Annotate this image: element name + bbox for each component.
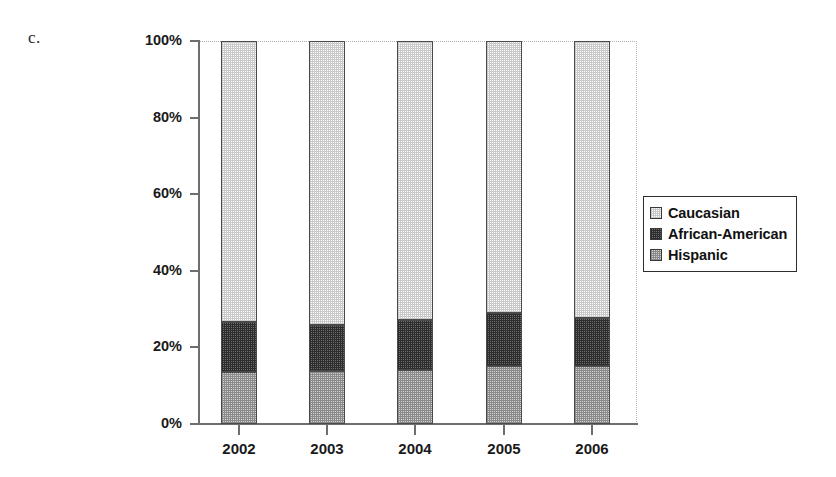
bar-segment-hispanic-2003[interactable] bbox=[309, 371, 345, 424]
y-axis-line bbox=[198, 40, 200, 425]
x-axis-tick bbox=[591, 425, 593, 435]
legend-item-caucasian[interactable]: Caucasian bbox=[650, 202, 787, 223]
legend-item-hispanic[interactable]: Hispanic bbox=[650, 244, 787, 265]
x-axis-tick-label: 2006 bbox=[552, 440, 632, 457]
x-axis-tick bbox=[414, 425, 416, 435]
y-axis-tick-label: 100% bbox=[120, 32, 182, 48]
bar-segment-african-american-2002[interactable] bbox=[221, 322, 257, 372]
legend-item-african-american[interactable]: African-American bbox=[650, 223, 787, 244]
y-axis-tick-label: 60% bbox=[120, 185, 182, 201]
bar-segment-african-american-2004[interactable] bbox=[397, 320, 433, 370]
bar-2003[interactable] bbox=[309, 41, 345, 424]
legend-item-label: Hispanic bbox=[668, 247, 728, 263]
y-axis-tick-label: 0% bbox=[120, 415, 182, 431]
y-axis-tick-label: 20% bbox=[120, 338, 182, 354]
chart-page: c. 0%20%40%60%80%100% 200220032004200520… bbox=[0, 0, 836, 477]
bar-segment-african-american-2005[interactable] bbox=[486, 313, 522, 366]
x-axis-tick bbox=[326, 425, 328, 435]
bar-segment-hispanic-2004[interactable] bbox=[397, 370, 433, 424]
bar-segment-caucasian-2005[interactable] bbox=[486, 41, 522, 313]
y-axis-tick bbox=[190, 40, 199, 42]
y-axis-tick bbox=[190, 270, 199, 272]
bar-segment-caucasian-2002[interactable] bbox=[221, 41, 257, 322]
bar-segment-caucasian-2004[interactable] bbox=[397, 41, 433, 320]
legend-swatch-icon bbox=[650, 249, 662, 261]
bar-segment-caucasian-2006[interactable] bbox=[574, 41, 610, 318]
y-axis-tick bbox=[190, 193, 199, 195]
x-axis-tick-label: 2003 bbox=[287, 440, 367, 457]
chart-legend: CaucasianAfrican-AmericanHispanic bbox=[643, 196, 797, 272]
bar-segment-hispanic-2002[interactable] bbox=[221, 372, 257, 424]
legend-swatch-icon bbox=[650, 207, 662, 219]
x-axis-tick-label: 2004 bbox=[375, 440, 455, 457]
bar-2002[interactable] bbox=[221, 41, 257, 424]
legend-swatch-icon bbox=[650, 228, 662, 240]
bar-segment-hispanic-2005[interactable] bbox=[486, 366, 522, 424]
y-axis-tick bbox=[190, 423, 199, 425]
bar-segment-african-american-2006[interactable] bbox=[574, 318, 610, 366]
bar-2004[interactable] bbox=[397, 41, 433, 424]
x-axis-tick bbox=[503, 425, 505, 435]
bar-segment-hispanic-2006[interactable] bbox=[574, 366, 610, 424]
y-axis-tick bbox=[190, 117, 199, 119]
bar-segment-african-american-2003[interactable] bbox=[309, 325, 345, 371]
y-axis-tick-label: 40% bbox=[120, 262, 182, 278]
bar-segment-caucasian-2003[interactable] bbox=[309, 41, 345, 325]
bar-2006[interactable] bbox=[574, 41, 610, 424]
bar-2005[interactable] bbox=[486, 41, 522, 424]
figure-label: c. bbox=[28, 28, 41, 48]
y-axis-tick-label: 80% bbox=[120, 109, 182, 125]
y-axis-tick bbox=[190, 346, 199, 348]
x-axis-tick-label: 2002 bbox=[199, 440, 279, 457]
x-axis-tick-label: 2005 bbox=[464, 440, 544, 457]
legend-item-label: Caucasian bbox=[668, 205, 740, 221]
x-axis-tick bbox=[238, 425, 240, 435]
legend-item-label: African-American bbox=[668, 226, 787, 242]
